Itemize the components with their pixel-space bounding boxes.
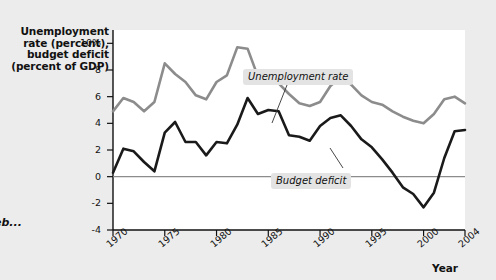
- y-tick-label: 4: [71, 117, 101, 128]
- figure-root: Unemploymentrate (percent),budget defici…: [0, 0, 496, 280]
- y-tick-label: 8: [71, 64, 101, 75]
- y-tick-label: 10%: [71, 37, 101, 48]
- y-tick-label: -4: [71, 224, 101, 235]
- series-line-budget-deficit: [113, 98, 465, 207]
- y-tick-label: 6: [71, 91, 101, 102]
- y-tick-label: 2: [71, 144, 101, 155]
- y-tick-label: 0: [71, 171, 101, 182]
- leader-line-deficit: [330, 148, 343, 168]
- series-label-budget-deficit: Budget deficit: [271, 173, 351, 189]
- y-tick-label: -2: [71, 197, 101, 208]
- series-label-unemployment-rate: Unemployment rate: [243, 69, 353, 85]
- y-tick-marks: [107, 43, 113, 230]
- series-line-unemployment-rate: [113, 47, 465, 123]
